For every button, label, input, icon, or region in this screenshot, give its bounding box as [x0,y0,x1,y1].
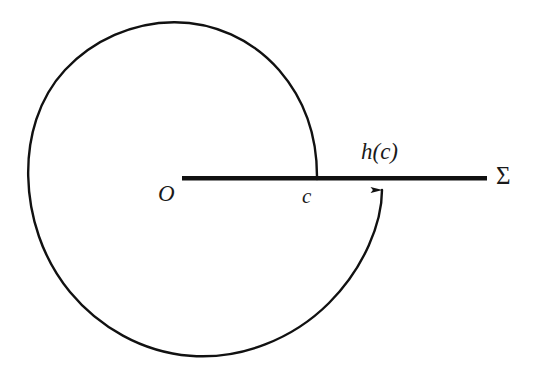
label-map-image-hc: h(c) [361,140,398,163]
label-crossing-point-c: c [302,186,311,207]
label-origin: O [158,182,175,205]
spiral-curve [28,22,382,356]
spiral-diagram-svg [0,0,541,374]
figure-canvas: O c h(c) Σ [0,0,541,374]
spiral-curve-group [28,22,382,356]
label-ray-sigma: Σ [496,163,511,188]
